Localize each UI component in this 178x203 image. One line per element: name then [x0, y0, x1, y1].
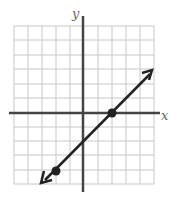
point-neg2-neg4	[52, 167, 61, 176]
x-axis-label: x	[161, 108, 168, 123]
point-2-0	[108, 109, 117, 118]
y-axis-label: y	[72, 6, 79, 21]
coordinate-plane	[0, 0, 178, 203]
